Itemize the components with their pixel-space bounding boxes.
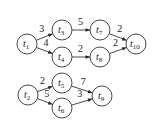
edge-t6-t9: 3 (72, 88, 93, 105)
edge-weight-label: 3 (77, 88, 82, 99)
node-t10: t10 (126, 34, 146, 54)
edge-weight-label: 5 (78, 16, 83, 27)
edge-weight-label: 3 (39, 23, 44, 34)
node-t6: t6 (52, 98, 72, 118)
edge-t7-t10: 2 (109, 23, 126, 40)
edge-arrow (37, 99, 52, 105)
edge-arrow (109, 34, 126, 41)
edge-weight-label: 2 (117, 23, 122, 34)
edge-arrow (72, 99, 93, 105)
edge-arrow (109, 47, 126, 53)
edge-weight-label: 7 (81, 76, 86, 87)
graph-canvas: 3452222573 t1t3t4t7t8t10t2t5t6t9 (0, 0, 156, 126)
edge-weight-label: 5 (44, 88, 49, 99)
nodes-layer: t1t3t4t7t8t10t2t5t6t9 (17, 20, 146, 118)
edge-t2-t6: 5 (37, 88, 52, 105)
edge-weight-label: 4 (44, 37, 49, 48)
edge-weight-label: 2 (113, 37, 118, 48)
edge-arrow (36, 47, 52, 53)
node-t5: t5 (52, 73, 72, 93)
node-t3: t3 (52, 20, 72, 40)
edge-t3-t7: 5 (72, 16, 90, 30)
node-t9: t9 (92, 86, 112, 106)
node-t2: t2 (18, 85, 38, 105)
edge-t4-t8: 2 (72, 43, 90, 57)
node-t1: t1 (17, 34, 37, 54)
node-t7: t7 (90, 20, 110, 40)
edges-layer: 3452222573 (36, 16, 126, 105)
node-t8: t8 (90, 47, 110, 67)
edge-weight-label: 2 (78, 43, 83, 54)
edge-weight-label: 2 (40, 75, 45, 86)
node-t4: t4 (52, 47, 72, 67)
